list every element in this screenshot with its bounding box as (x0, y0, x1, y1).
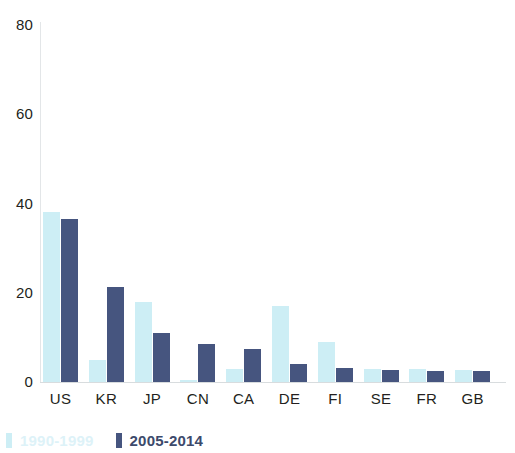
bar-group (226, 25, 261, 382)
y-axis-tick-label: 20 (1, 285, 33, 300)
bar-group (455, 25, 490, 382)
y-axis-tick-label: 0 (1, 374, 33, 389)
bar (318, 342, 335, 382)
y-axis-tick-label: 80 (1, 17, 33, 32)
x-axis-tick-label: JP (127, 390, 178, 407)
x-axis-tick-label: KR (81, 390, 132, 407)
y-axis-tick-labels: 020406080 (0, 0, 33, 453)
bar (336, 368, 353, 382)
bar (180, 380, 197, 382)
bar-group (89, 25, 124, 382)
bar (89, 360, 106, 382)
bar-group (272, 25, 307, 382)
legend-item[interactable]: 1990-1999 (6, 433, 94, 448)
bar (290, 364, 307, 382)
legend-label: 2005-2014 (130, 433, 204, 448)
bar (61, 219, 78, 382)
bar (198, 344, 215, 382)
legend-item[interactable]: 2005-2014 (116, 433, 204, 448)
x-axis-tick-label: FR (401, 390, 452, 407)
bar-group (43, 25, 78, 382)
y-axis-tick-label: 40 (1, 196, 33, 211)
legend-swatch-icon (6, 433, 12, 448)
bar (107, 287, 124, 382)
bar-group (364, 25, 399, 382)
bar-group (135, 25, 170, 382)
bar (135, 302, 152, 382)
bar-chart: 020406080 USKRJPCNCADEFISEFRGB 1990-1999… (0, 0, 515, 453)
bar (455, 370, 472, 382)
bar (244, 349, 261, 382)
x-axis-tick-label: US (35, 390, 86, 407)
bar (364, 369, 381, 382)
x-axis-tick-label: SE (356, 390, 407, 407)
bar (409, 369, 426, 382)
bar (427, 371, 444, 382)
bar (473, 371, 490, 382)
x-axis-baseline (40, 382, 506, 383)
x-axis-tick-label: CN (172, 390, 223, 407)
bar (382, 370, 399, 382)
bar (272, 306, 289, 382)
x-axis-tick-label: GB (447, 390, 498, 407)
x-axis-tick-label: CA (218, 390, 269, 407)
chart-legend: 1990-19992005-2014 (6, 430, 225, 450)
plot-area (40, 25, 505, 382)
y-axis-tick-label: 60 (1, 106, 33, 121)
legend-swatch-icon (116, 433, 122, 448)
x-axis-tick-label: FI (310, 390, 361, 407)
bar-group (409, 25, 444, 382)
bar (153, 333, 170, 382)
bar (43, 212, 60, 382)
x-axis-tick-label: DE (264, 390, 315, 407)
legend-label: 1990-1999 (20, 433, 94, 448)
bar-group (180, 25, 215, 382)
bar-group (318, 25, 353, 382)
bar (226, 369, 243, 382)
